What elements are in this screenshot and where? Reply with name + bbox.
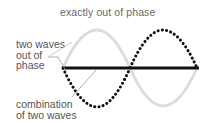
leader-line-combination — [72, 70, 96, 97]
wave-diagram — [0, 0, 213, 123]
